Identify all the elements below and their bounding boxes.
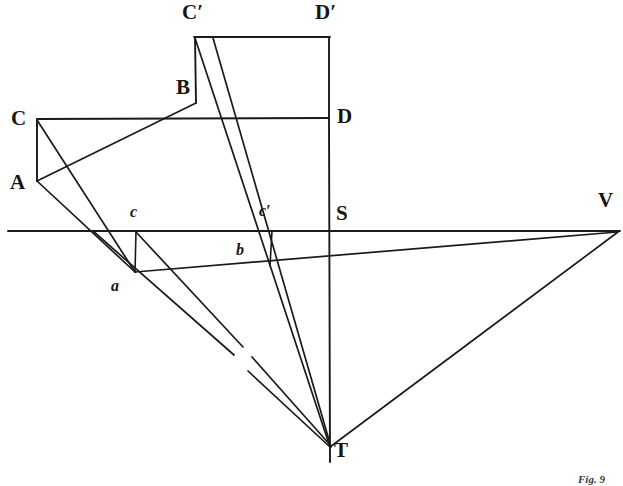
diagram-segment-vertical-axis-S-T [329,119,330,462]
point-label-C: C [11,108,26,129]
diagram-segment-ray-c-T-seg2 [252,357,331,446]
diagram-canvas [0,0,623,486]
diagram-segment-vert-c-a [135,231,136,272]
diagram-segment-ray-Cp-T [195,38,330,447]
diagram-segment-base-line-a-b-V [135,232,617,272]
point-label-B: B [176,77,190,98]
diagram-segment-picture-plane-line [37,118,329,119]
point-label-b: b [236,242,244,258]
point-label-A: A [10,172,25,193]
point-label-S: S [336,203,348,224]
diagram-segment-diag-A-B [37,103,196,181]
point-label-Cp: C′ [182,2,203,23]
point-label-V: V [598,190,613,211]
diagram-segment-ray-B-T [213,38,331,447]
point-label-T: T [334,440,348,461]
figure-container: CABC′D′DSVTcabc′ Fig. 9 [0,0,623,486]
diagram-segment-ray-c-T-seg1 [136,232,243,347]
point-label-a: a [111,278,119,294]
point-label-cp: c′ [259,203,271,219]
segment-layer [8,37,620,462]
point-label-c: c [130,204,137,220]
point-label-Dp: D′ [315,2,336,23]
diagram-segment-rect-left-Cp-B [195,37,196,103]
diagram-segment-ray-T-V [330,232,618,447]
point-label-D: D [337,106,352,127]
diagram-segment-diag-C-a [37,120,135,272]
figure-caption: Fig. 9 [578,474,605,485]
